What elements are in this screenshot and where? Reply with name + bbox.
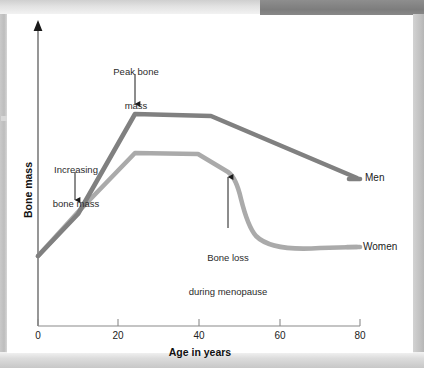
legend-label-men: Men [365, 172, 384, 184]
x-tick-label-80: 80 [348, 330, 372, 342]
y-axis-arrowhead [34, 20, 43, 31]
x-axis [38, 319, 360, 326]
annotation-increasing-bone-mass: Increasing bone mass [40, 142, 112, 232]
x-axis-title: Age in years [110, 346, 290, 358]
figure-root: Peak bone mass Increasing bone mass Bone… [0, 0, 424, 368]
x-tick-label-60: 60 [268, 330, 292, 342]
y-axis-title: Bone mass [22, 162, 34, 218]
x-tick-label-20: 20 [106, 330, 130, 342]
annotation-peak-bone-mass-line1: Peak bone [98, 66, 174, 77]
annotation-peak-bone-mass-line2: mass [98, 100, 174, 111]
annotation-peak-bone-mass: Peak bone mass [98, 44, 174, 134]
annotation-increasing-bone-mass-line1: Increasing [40, 164, 112, 175]
annotation-bone-loss-during-menopause: Bone loss during menopause [176, 230, 280, 320]
legend-label-women: Women [363, 241, 397, 253]
annotation-bone-loss-line1: Bone loss [176, 252, 280, 263]
annotation-bone-loss-line2: during menopause [176, 286, 280, 297]
x-tick-label-0: 0 [26, 330, 50, 342]
x-tick-label-40: 40 [187, 330, 211, 342]
annotation-increasing-bone-mass-line2: bone mass [40, 198, 112, 209]
